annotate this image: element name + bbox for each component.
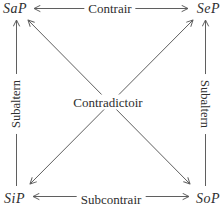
corner-label-sop: SoP: [196, 192, 220, 206]
corner-label-sap: SaP: [3, 2, 27, 16]
corner-label-sip: SiP: [4, 192, 25, 206]
subaltern-left-label: Subaltern: [10, 74, 23, 134]
square-of-opposition-diagram: SaP SeP SiP SoP Contrair Subcontrair Con…: [0, 0, 222, 209]
corner-label-sep: SeP: [197, 2, 220, 16]
subcontrary-label: Subcontrair: [77, 193, 146, 206]
subaltern-right-label: Subaltern: [199, 74, 212, 134]
contradictory-label: Contradictoir: [67, 95, 148, 110]
contrary-label: Contrair: [84, 2, 135, 15]
